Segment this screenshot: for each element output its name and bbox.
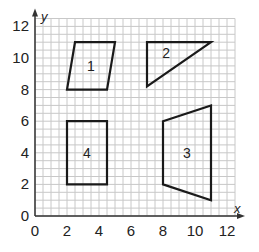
x-tick-label: 8 [159, 222, 167, 239]
x-tick-label: 2 [63, 222, 71, 239]
grid-lines [35, 19, 235, 217]
y-tick-label: 8 [21, 81, 29, 98]
shape-label: 3 [183, 145, 191, 161]
shape-label: 2 [162, 45, 170, 61]
x-tick-label: 4 [95, 222, 103, 239]
x-tick-label: 6 [127, 222, 135, 239]
y-tick-label: 4 [21, 144, 29, 161]
shape-label: 4 [83, 145, 91, 161]
y-tick-label: 10 [12, 49, 29, 66]
x-tick-label: 10 [187, 222, 204, 239]
shape-label: 1 [87, 58, 95, 74]
y-axis-label: y [40, 9, 49, 24]
x-tick-label: 0 [31, 222, 39, 239]
coordinate-plane: 024681012024681012 1234 x y [0, 0, 259, 252]
y-tick-label: 6 [21, 112, 29, 129]
y-tick-label: 12 [12, 17, 29, 34]
x-axis-label: x [233, 201, 241, 216]
tick-labels: 024681012024681012 [12, 17, 235, 239]
y-tick-label: 2 [21, 175, 29, 192]
y-tick-label: 0 [21, 207, 29, 224]
x-tick-label: 12 [219, 222, 236, 239]
y-axis-arrow-icon [32, 9, 38, 17]
